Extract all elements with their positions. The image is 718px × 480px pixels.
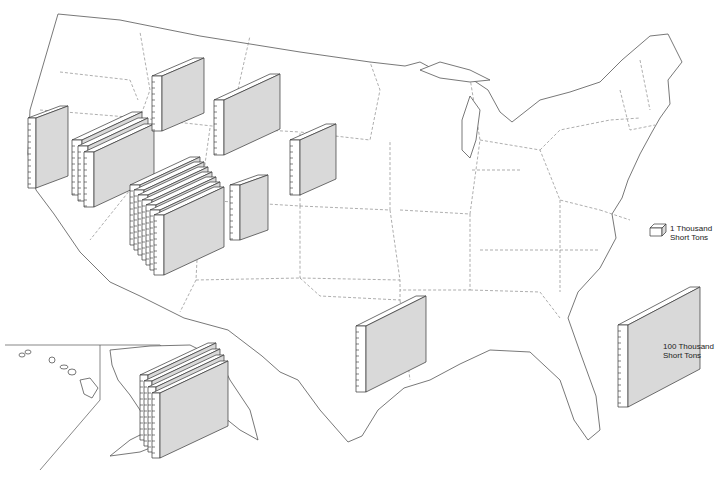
tonnage-block	[230, 175, 268, 240]
legend-small-block-icon	[650, 224, 666, 236]
legend-large-label: 100 Thousand Short Tons	[663, 342, 714, 360]
us-map	[0, 0, 718, 480]
legend-small-label: 1 Thousand Short Tons	[670, 224, 712, 242]
hawaii	[19, 350, 98, 398]
tonnage-block	[28, 106, 68, 188]
